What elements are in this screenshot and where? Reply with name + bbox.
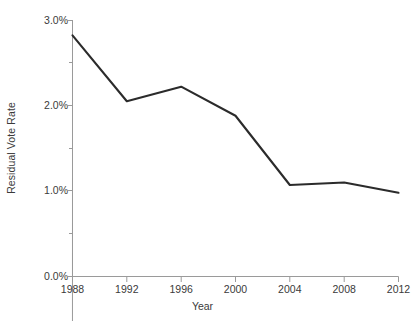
data-line-residual-vote-rate: [73, 35, 399, 192]
x-tick-label-1988: 1988: [43, 283, 103, 295]
x-tick-label-1996: 1996: [151, 283, 211, 295]
x-tick-label-2000: 2000: [206, 283, 266, 295]
x-tick-label-1992: 1992: [97, 283, 157, 295]
x-tick-label-2008: 2008: [314, 283, 374, 295]
x-tick-label-2012: 2012: [369, 283, 415, 295]
x-axis-title: Year: [0, 300, 405, 312]
x-tick-label-2004: 2004: [260, 283, 320, 295]
x-tick-marks: [73, 277, 399, 283]
